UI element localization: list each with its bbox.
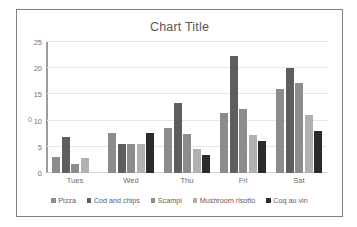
legend-item[interactable]: Cod and chips [87,196,140,205]
y-tick-label: 20 [20,64,42,73]
bar[interactable] [220,113,228,173]
bar[interactable] [127,144,135,173]
legend-swatch-icon [193,198,198,203]
bar[interactable] [62,137,70,173]
legend-label: Cod and chips [94,196,140,205]
x-tick-label: Wed [123,176,138,185]
legend-item[interactable]: Coq au vin [266,196,307,205]
plot-area [47,42,327,173]
bar[interactable] [137,144,145,173]
legend-label: Pizza [58,196,76,205]
x-axis-category-labels: TuesWedThuFriSat [47,176,327,190]
bar-group [47,42,103,173]
bar[interactable] [249,135,257,173]
legend-label: Coq au vin [273,196,307,205]
legend-swatch-icon [51,198,56,203]
y-tick-label: 0 [20,169,42,178]
bar-group [271,42,327,173]
axis-stray-mark: 0 [28,115,32,124]
bar[interactable] [286,68,294,173]
legend-swatch-icon [87,198,92,203]
bar[interactable] [108,133,116,173]
bar[interactable] [174,103,182,173]
bar[interactable] [164,128,172,173]
bar-group [215,42,271,173]
legend-label: Mushroom risotto [200,196,256,205]
y-tick-label: 5 [20,142,42,151]
bar[interactable] [52,157,60,173]
bar[interactable] [258,141,266,173]
bar[interactable] [193,149,201,173]
legend-item[interactable]: Pizza [51,196,76,205]
legend-swatch-icon [151,198,156,203]
bar[interactable] [183,134,191,173]
bar[interactable] [295,83,303,173]
chart-title: Chart Title [17,20,342,34]
bar[interactable] [146,133,154,173]
y-tick-label: 25 [20,38,42,47]
legend-label: Scampi [158,196,182,205]
bar[interactable] [202,155,210,173]
y-tick-label: 15 [20,90,42,99]
x-tick-label: Thu [181,176,194,185]
x-tick-label: Tues [67,176,83,185]
bar[interactable] [230,56,238,173]
x-tick-label: Sat [293,176,304,185]
bar-group [159,42,215,173]
chart-legend: PizzaCod and chipsScampiMushroom risotto… [17,196,342,205]
bar[interactable] [314,131,322,173]
y-axis-tick-labels: 0510152025 [17,42,42,173]
x-tick-label: Fri [239,176,248,185]
bar[interactable] [71,164,79,173]
bar-group [103,42,159,173]
legend-swatch-icon [266,198,271,203]
bar[interactable] [276,89,284,173]
chart-container: Chart Title 0510152025 0 TuesWedThuFriSa… [16,9,343,217]
legend-item[interactable]: Scampi [151,196,182,205]
bar[interactable] [305,115,313,173]
bar[interactable] [81,158,89,173]
legend-item[interactable]: Mushroom risotto [193,196,256,205]
bar[interactable] [239,109,247,173]
bar[interactable] [118,144,126,173]
